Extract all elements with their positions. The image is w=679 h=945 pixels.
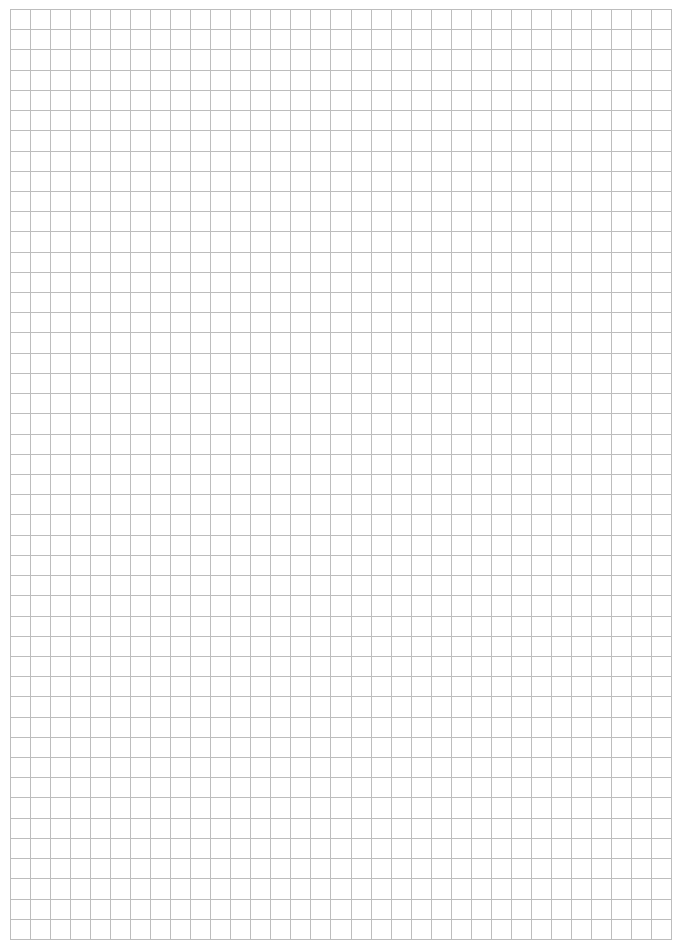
graph-paper-grid <box>10 9 671 939</box>
grid-lines <box>10 9 672 940</box>
